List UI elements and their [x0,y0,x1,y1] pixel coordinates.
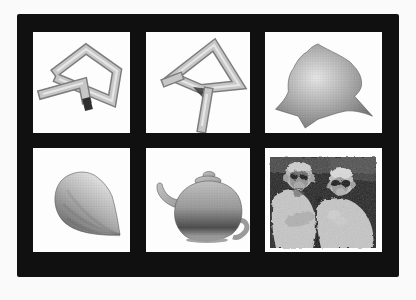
spiky-blob-image [265,32,382,133]
panel-cone [33,148,130,252]
tube-tail-segment [202,92,208,128]
panel-spiky-blob [265,32,382,133]
utah-teapot-image [146,148,250,252]
panel-monkeys-photo [265,148,382,252]
figure-black-frame [17,14,399,277]
panel-tube-view-2 [146,32,250,133]
swept-tube-image-2 [146,32,250,133]
tube-diamond-loop [173,45,239,89]
tube-tail-segment [43,83,89,110]
teapot-halftone-texture [175,181,242,241]
two-monkeys-photo [265,148,382,252]
photo-content [270,157,376,248]
blob-halftone-texture [275,44,372,128]
photo-grain-overlay [270,157,376,248]
figure-page [0,0,416,300]
swept-tube-image-1 [33,32,130,133]
cone-halftone-texture [55,172,120,235]
tube-end-stub [166,77,179,82]
cone-image [33,148,130,252]
panel-tube-view-1 [33,32,130,133]
panel-teapot [146,148,250,252]
tube-dark-end-cap [86,98,89,110]
